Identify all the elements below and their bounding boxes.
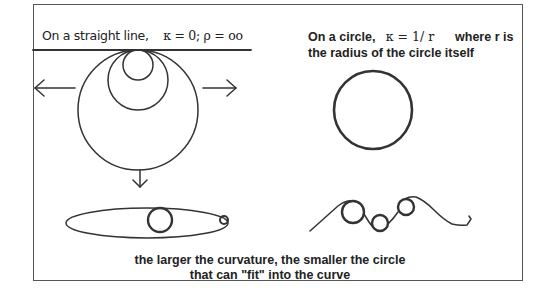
circle-caption-suffix: where r is <box>455 30 513 44</box>
single-circle <box>334 71 412 149</box>
straight-line-formula: κ = 0; ρ = oo <box>163 28 242 43</box>
circle-formula: κ = 1/ r <box>386 29 434 44</box>
small-nested-circle <box>123 50 153 80</box>
conclusion-line-1: the larger the curvature, the smaller th… <box>100 253 440 268</box>
wave-circle-2 <box>372 215 388 231</box>
wavy-curve <box>310 197 471 231</box>
arrow-down-icon <box>133 170 147 187</box>
straight-line-caption: On a straight line, κ = 0; ρ = oo <box>42 28 243 43</box>
ellipse <box>66 208 228 238</box>
conclusion-line-2: that can "fit" into the curve <box>100 268 440 283</box>
wave-circle-1 <box>342 201 364 223</box>
arrow-left-icon <box>35 80 75 96</box>
circle-caption: On a circle, κ = 1/ r where r is the rad… <box>308 29 513 61</box>
wave-circle-3 <box>398 199 414 215</box>
ellipse-large-circle <box>148 208 172 232</box>
straight-line-text: On a straight line, <box>42 28 149 43</box>
circle-caption-lead: On a circle, <box>308 30 375 44</box>
conclusion-caption: the larger the curvature, the smaller th… <box>100 253 440 283</box>
diagram-canvas: On a straight line, κ = 0; ρ = oo On a c… <box>0 0 555 299</box>
arrow-right-icon <box>203 80 236 96</box>
circle-caption-line-2: the radius of the circle itself <box>308 45 513 61</box>
circle-caption-line-1: On a circle, κ = 1/ r where r is <box>308 29 513 45</box>
